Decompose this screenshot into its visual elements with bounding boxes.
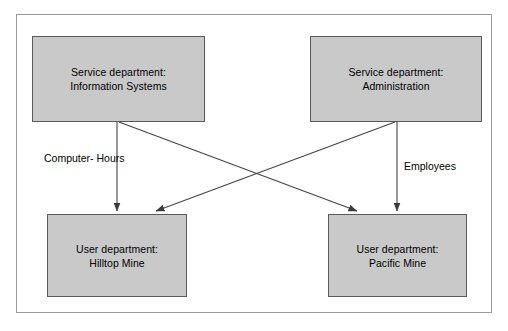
node-hilltop-mine: User department: Hilltop Mine	[47, 214, 187, 297]
edge-label-line-1: Computer-	[44, 152, 94, 164]
node-line-2: Hilltop Mine	[89, 256, 144, 270]
edge-label-line-2: Hours	[97, 152, 125, 164]
node-line-1: User department:	[76, 242, 158, 256]
node-line-1: User department:	[357, 242, 439, 256]
edge-label-employees: Employees	[404, 159, 476, 173]
node-administration: Service department: Administration	[310, 36, 482, 122]
node-line-1: Service department:	[349, 65, 444, 79]
node-line-2: Information Systems	[70, 79, 167, 93]
node-information-systems: Service department: Information Systems	[32, 36, 205, 122]
edge-label-computer-hours: Computer- Hours	[44, 151, 116, 165]
node-line-1: Service department:	[71, 65, 166, 79]
diagram-canvas: Service department: Information Systems …	[0, 0, 508, 331]
node-pacific-mine: User department: Pacific Mine	[328, 214, 467, 297]
node-line-2: Pacific Mine	[369, 256, 426, 270]
node-line-2: Administration	[362, 79, 429, 93]
edge-label-line-1: Employees	[404, 160, 456, 172]
